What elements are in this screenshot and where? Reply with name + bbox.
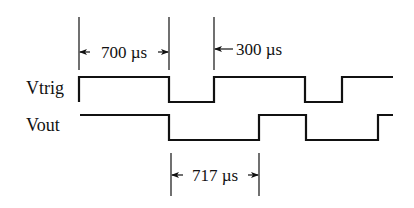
- timing-diagram: 700 µs 300 µs Vtrig Vout 717 µs: [0, 0, 414, 208]
- annotation-717us: 717 µs: [172, 166, 258, 185]
- vtrig-waveform: [79, 77, 393, 102]
- annotation-300us: 300 µs: [215, 40, 282, 59]
- label-700us: 700 µs: [101, 43, 147, 62]
- vout-waveform: [80, 115, 393, 140]
- label-vout: Vout: [26, 115, 60, 135]
- label-300us: 300 µs: [236, 40, 282, 59]
- label-vtrig: Vtrig: [26, 78, 64, 98]
- label-717us: 717 µs: [192, 166, 238, 185]
- annotation-700us: 700 µs: [80, 43, 168, 62]
